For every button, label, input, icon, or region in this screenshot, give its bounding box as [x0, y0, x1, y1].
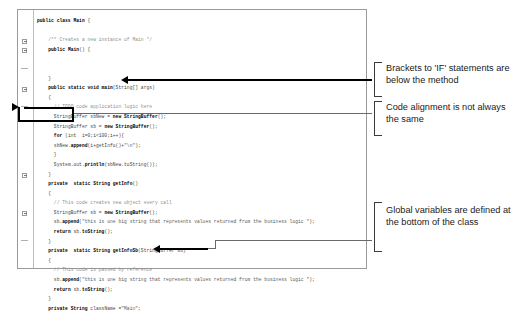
- code-line: StringBuffer sb = new StringBuffer();: [37, 208, 363, 218]
- code-line: for (int i=0;i<100;i++){: [37, 131, 363, 141]
- code-token: private static String: [48, 248, 113, 253]
- code-token: (sbNew.toString());: [104, 162, 157, 167]
- code-token: );: [309, 277, 315, 282]
- callout-arrow-head-brackets: [121, 76, 128, 84]
- code-token: sb.: [54, 277, 62, 282]
- code-token: getInfoSb: [113, 248, 138, 253]
- fold-marker-icon[interactable]: [22, 173, 27, 178]
- code-line: StringBuffer sb = new StringBuffer();: [37, 122, 363, 132]
- code-line: public static void main(String[] args): [37, 83, 363, 93]
- code-token: ();: [149, 124, 157, 129]
- code-token: sb.: [54, 219, 62, 224]
- code-token: new StringBuffer: [104, 124, 149, 129]
- editor-gutter: [18, 10, 34, 268]
- code-line: [37, 26, 363, 36]
- code-token: () {: [79, 47, 90, 52]
- for-line-pointer-left: [18, 107, 20, 121]
- code-token: // This code is passed by reference: [54, 267, 152, 272]
- code-token: "this is one big string that represents …: [82, 277, 309, 282]
- code-line: }: [37, 150, 363, 160]
- code-token: );: [135, 143, 141, 148]
- code-line: {: [37, 189, 363, 199]
- code-token: "this is one big string that represents …: [82, 219, 309, 224]
- callout-arrow-line-brackets: [128, 79, 372, 81]
- code-line: sb.append("this is one big string that r…: [37, 217, 363, 227]
- callout-leader-globals-seg2: [215, 240, 372, 241]
- code-token: // This code creates new object every ca…: [54, 200, 172, 205]
- code-token: {: [48, 258, 51, 263]
- code-token: return: [54, 287, 74, 292]
- code-line: sb.append("this is one big string that r…: [37, 275, 363, 285]
- code-token: println: [85, 162, 105, 167]
- code-token: }: [48, 172, 51, 177]
- callout-brackets-text: Brackets to 'IF' statements are below th…: [386, 63, 510, 85]
- code-token: (i+getInfo()+: [88, 143, 125, 148]
- code-token: sb.: [74, 229, 82, 234]
- code-line: // This code is passed by reference: [37, 265, 363, 275]
- callout-alignment: Code alignment is not always the same: [386, 102, 518, 125]
- code-line: // This code creates new object every ca…: [37, 198, 363, 208]
- fold-marker-icon[interactable]: [22, 48, 27, 53]
- code-line: [37, 54, 363, 64]
- code-line: }: [37, 237, 363, 247]
- callout-globals-text: Global variables are defined at the bott…: [386, 205, 511, 227]
- code-editor-panel: public class Main { /** Creates a new in…: [17, 9, 367, 269]
- code-token: ();: [104, 287, 112, 292]
- fold-marker-icon[interactable]: [22, 211, 27, 216]
- code-line: {: [37, 256, 363, 266]
- code-token: private static String: [48, 181, 113, 186]
- code-lines: public class Main { /** Creates a new in…: [37, 16, 363, 313]
- code-token: append: [62, 277, 79, 282]
- callout-bracket-globals: [374, 202, 382, 252]
- code-token: }: [48, 296, 51, 301]
- code-line: return sb.toString();: [37, 227, 363, 237]
- code-token: "\n": [124, 143, 135, 148]
- callout-arrow-head-globals: [153, 245, 160, 253]
- code-token: return: [54, 229, 74, 234]
- callout-bracket-alignment: [374, 101, 382, 136]
- code-line: return sb.toString();: [37, 285, 363, 295]
- code-token: "Main": [121, 306, 138, 311]
- code-token: append: [71, 143, 88, 148]
- code-line: /** Creates a new instance of Main */: [37, 35, 363, 45]
- for-line-pointer-top: [24, 107, 74, 109]
- code-token: (): [132, 181, 138, 186]
- code-token: }: [48, 76, 51, 81]
- code-line: {: [37, 93, 363, 103]
- code-line: public Main() {: [37, 45, 363, 55]
- code-token: public: [48, 47, 68, 52]
- code-token: Main: [74, 18, 85, 23]
- code-line: }: [37, 294, 363, 304]
- callout-bracket-brackets: [374, 62, 382, 97]
- code-line: [37, 64, 363, 74]
- callout-globals: Global variables are defined at the bott…: [386, 205, 518, 228]
- code-token: public class: [37, 18, 74, 23]
- fold-marker-icon[interactable]: [22, 87, 27, 92]
- code-token: {: [85, 18, 91, 23]
- code-token: StringBuffer sb =: [54, 124, 105, 129]
- for-line-pointer-bottom: [18, 120, 74, 122]
- code-token: }: [54, 152, 57, 157]
- code-token: className =: [90, 306, 121, 311]
- callout-arrow-line-globals: [160, 248, 208, 250]
- code-token: Main: [68, 47, 79, 52]
- code-token: for: [54, 133, 65, 138]
- code-token: ();: [158, 114, 166, 119]
- code-token: System.out.: [54, 162, 85, 167]
- code-token: StringBuffer sb =: [54, 210, 105, 215]
- code-token: ();: [104, 229, 112, 234]
- gutter-tick: [21, 240, 28, 241]
- code-token: {: [48, 95, 51, 100]
- code-token: private String: [48, 306, 90, 311]
- code-token: main: [102, 85, 113, 90]
- code-line: private static String getInfo(): [37, 179, 363, 189]
- code-line: sbNew.append(i+getInfo()+"\n");: [37, 141, 363, 151]
- code-line: System.out.println(sbNew.toString());: [37, 160, 363, 170]
- code-line: }: [37, 170, 363, 180]
- callout-brackets: Brackets to 'IF' statements are below th…: [386, 63, 518, 86]
- code-token: }: [48, 239, 51, 244]
- fold-marker-icon[interactable]: [22, 39, 27, 44]
- code-token: sb.: [74, 287, 82, 292]
- code-token: ();: [149, 210, 157, 215]
- code-token: );: [309, 219, 315, 224]
